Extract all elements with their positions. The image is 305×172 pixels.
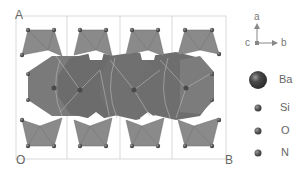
axis-label-b: b: [281, 38, 287, 48]
cell-label-b: B: [225, 154, 233, 166]
axis-indicator: [254, 23, 278, 46]
n-sphere-icon: [255, 150, 262, 157]
cell-label-a: A: [15, 9, 23, 21]
axis-label-c: c: [245, 38, 250, 48]
legend-label-ba: Ba: [279, 74, 292, 85]
legend-label-o: O: [281, 125, 290, 136]
si-tetrahedra-bottom: [22, 118, 219, 146]
legend-label-n: N: [281, 147, 289, 158]
legend-label-si: Si: [280, 102, 290, 113]
crystal-structure-diagram: [0, 0, 305, 172]
si-tetrahedra-top: [22, 30, 219, 56]
axis-label-a: a: [254, 12, 260, 22]
ba-sphere-icon: [249, 71, 267, 89]
si-sphere-icon: [255, 105, 262, 112]
cell-label-origin: O: [16, 154, 25, 166]
o-sphere-icon: [255, 128, 262, 135]
legend-spheres: [249, 71, 267, 157]
